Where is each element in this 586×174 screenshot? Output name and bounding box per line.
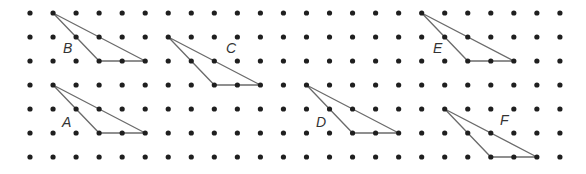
grid-dot [120,130,125,135]
grid-dot [143,130,148,135]
grid-dot [488,10,493,15]
grid-dot [350,34,355,39]
grid-dot [143,34,148,39]
grid-dot [396,34,401,39]
grid-dot [50,106,55,111]
grid-dot [373,10,378,15]
grid-dot [281,34,286,39]
grid-dot [304,34,309,39]
grid-dot [534,58,539,63]
grid-dot [327,58,332,63]
grid-dot [511,58,516,63]
grid-dot [557,34,562,39]
grid-dot [97,10,102,15]
triangle-label: A [61,114,71,130]
grid-dot [27,154,32,159]
grid-dot [557,10,562,15]
grid-dot [73,130,78,135]
grid-dot [97,106,102,111]
grid-dot [511,130,516,135]
grid-dot [281,154,286,159]
grid-dot [166,154,171,159]
grid-dot [396,154,401,159]
grid-dot [419,34,424,39]
grid-dot [534,106,539,111]
grid-dot [73,106,78,111]
grid-dot [350,154,355,159]
grid-dot [73,34,78,39]
grid-dot [189,58,194,63]
grid-dot [73,58,78,63]
grid-dot [166,34,171,39]
grid-dot [97,154,102,159]
triangle-label: D [316,114,326,130]
grid-dot [511,154,516,159]
grid-dot [419,130,424,135]
grid-dot [488,130,493,135]
grid-dot [327,130,332,135]
dot-grid-diagram: BCEADF B C E A D F [0,0,586,174]
grid-dot [166,58,171,63]
grid-dot [373,130,378,135]
grid-dot [73,154,78,159]
grid-dot [281,130,286,135]
grid-dot [281,106,286,111]
grid-dot [212,10,217,15]
grid-dot [465,154,470,159]
grid-dot [488,34,493,39]
grid-dot [258,106,263,111]
grid-dot [442,82,447,87]
grid-dot [557,154,562,159]
grid-dot [534,130,539,135]
grid-dot [396,130,401,135]
triangles-layer: BCEADF [53,13,537,157]
grid-dot [511,10,516,15]
grid-dot [281,82,286,87]
grid-dot [258,154,263,159]
grid-dot [50,58,55,63]
grid-dot [212,154,217,159]
grid-dot [212,34,217,39]
grid-dot [557,106,562,111]
grid-dot [120,34,125,39]
grid-dot [166,106,171,111]
grid-dot [212,106,217,111]
grid-dot [534,154,539,159]
grid-dot [350,82,355,87]
grid-dot [212,82,217,87]
grid-dot [50,34,55,39]
grid-dot [304,106,309,111]
grid-dot [50,130,55,135]
grid-dot [373,34,378,39]
grid-dot [511,82,516,87]
triangle-label: C [226,40,237,56]
grid-dot [97,58,102,63]
grid-dot [419,82,424,87]
grid-dot [396,58,401,63]
grid-dot [258,130,263,135]
grid-dot [465,82,470,87]
grid-dot [373,154,378,159]
grid-dot [143,10,148,15]
grid-dot [304,58,309,63]
grid-dot [166,130,171,135]
grid-dot [465,58,470,63]
grid-dot [235,34,240,39]
grid-dot [50,10,55,15]
grid-dot [27,106,32,111]
grid-dot [97,34,102,39]
grid-dot [50,82,55,87]
grid-dot [419,58,424,63]
grid-dot [304,10,309,15]
grid-dot [143,82,148,87]
grid-dot [465,34,470,39]
grid-dot [557,130,562,135]
grid-dot [465,106,470,111]
grid-dot [120,154,125,159]
grid-dot [258,58,263,63]
grid-dot [442,106,447,111]
grid-dot [50,154,55,159]
grid-dot [534,10,539,15]
grid-dot [166,82,171,87]
grid-dot [396,82,401,87]
